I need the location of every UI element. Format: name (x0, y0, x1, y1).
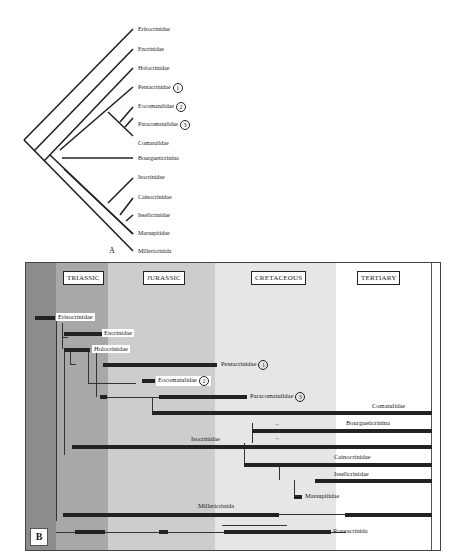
connector-line (279, 514, 345, 515)
range-bar-roveacrinida-1 (75, 530, 105, 534)
connector-line (62, 323, 63, 349)
connector-line (222, 525, 287, 526)
lineage-label-marsupitidae: Marsupitidae (303, 492, 341, 500)
lineage-label-cainocrinidae: Cainocrinidae (332, 453, 372, 461)
taxon-name: Paracomatulidae (138, 121, 178, 127)
taxon-label-isselicrinidae: Isselicrinidae (138, 211, 170, 219)
taxon-label-isocrinidae: Isocrinidae (138, 173, 165, 181)
lineage-label-pentacrinidae: Pentacrinidae1 (219, 360, 270, 370)
arrow-icon: → (274, 421, 280, 427)
connector-line (279, 465, 280, 480)
marker-1-icon: 1 (258, 360, 268, 370)
connector-line (64, 349, 65, 455)
range-bar-eocomatulidae (142, 379, 155, 383)
lineage-name: Eocomatulidae (158, 376, 197, 383)
lineage-label-holocrinidae: Holocrinidae (92, 345, 130, 353)
lineage-label-paracomatulidae: Paracomatulidae3 (248, 392, 307, 402)
range-bar-isocrinidae (72, 445, 432, 449)
connector-line (252, 423, 253, 443)
lineage-label-erisocrinidae: Erisocrinidae (56, 313, 95, 321)
present-day-line (431, 263, 432, 550)
lineage-name: Paracomatulidae (250, 392, 293, 399)
marker-3-icon: 3 (180, 120, 190, 130)
period-label-tertiary: TERTIARY (357, 271, 400, 285)
lineage-label-isocrinidae: Isocrinidae (189, 435, 222, 443)
lineage-label-roveacrinida: Roveacrinida (331, 527, 370, 535)
marker-2-icon: 2 (176, 102, 186, 112)
taxon-label-encrinidae: Encrinidae (138, 45, 164, 53)
connector-line (70, 364, 76, 365)
lineage-label-bourgueticrinina: Bourgueticrinina (344, 419, 392, 427)
range-bar-millericrinida (63, 513, 279, 517)
cladogram-branches (0, 0, 449, 258)
panel-letter-a: A (109, 246, 115, 255)
lineage-label-encrinidae: Encrinidae (102, 329, 134, 337)
lineage-label-isselicrinidae: Isselicrinidae (332, 470, 371, 478)
range-bar-roveacrinida-3 (224, 530, 331, 534)
connector-line (62, 337, 68, 338)
taxon-label-millericrinida: Millericrinida (138, 247, 171, 255)
range-bar-isselicrinidae (315, 479, 432, 483)
taxon-label-pentacrinidae: Pentacrinidae1 (138, 83, 183, 93)
taxon-label-erisocrinidae: Erisocrinidae (138, 25, 170, 33)
lineage-label-comatulidae: Comatulidae (370, 402, 407, 410)
range-bar-paracomatulidae (159, 395, 247, 399)
connector-line (294, 480, 295, 496)
panel-letter-b: B (30, 528, 48, 546)
range-bar-roveacrinida-2 (159, 530, 168, 534)
range-bar-millericrinida-late (345, 513, 432, 517)
range-bar-erisocrinidae (35, 316, 55, 320)
range-bar-paracomatulidae-early (100, 395, 107, 399)
range-chart-panel-b: TRIASSIC JURASSIC CRETACEOUS TERTIARY Er… (25, 262, 441, 551)
range-bar-bourgueticrinina (252, 429, 432, 433)
marker-2-icon: 2 (199, 376, 209, 386)
period-label-jurassic: JURASSIC (143, 271, 185, 285)
cladogram-panel-a: Erisocrinidae Encrinidae Holocrinidae Pe… (0, 0, 449, 258)
taxon-label-marsupitidae: Marsupitidae (138, 229, 170, 237)
taxon-name: Pentacrinidae (138, 84, 171, 90)
taxon-label-cainocrinidae: Cainocrinidae (138, 193, 172, 201)
period-label-cretaceous: CRETACEOUS (251, 271, 306, 285)
range-bar-encrinidae (64, 332, 102, 336)
connector-line (88, 383, 136, 384)
connector-line (56, 319, 57, 521)
connector-line (96, 349, 97, 397)
taxon-label-eocomatulidae: Eocomatulidae2 (138, 102, 186, 112)
range-bar-holocrinidae (64, 348, 90, 352)
lineage-name: Pentacrinidae (221, 360, 256, 367)
lineage-label-eocomatulidae: Eocomatulidae2 (156, 376, 211, 386)
taxon-label-holocrinidae: Holocrinidae (138, 64, 169, 72)
range-bar-comatulidae (152, 411, 432, 415)
taxon-label-comatulidae: Comatulidae (138, 139, 169, 147)
marker-1-icon: 1 (173, 83, 183, 93)
marker-3-icon: 3 (295, 392, 305, 402)
taxon-label-paracomatulidae: Paracomatulidae3 (138, 120, 190, 130)
arrow-icon: → (274, 435, 280, 441)
taxon-name: Eocomatulidae (138, 103, 174, 109)
band-pre-triassic (26, 263, 56, 550)
range-bar-cainocrinidae (244, 463, 432, 467)
taxon-label-bourgueticrinina: Bourgueticrinina (138, 154, 179, 162)
arrow-icon: → (60, 529, 66, 535)
range-bar-marsupitidae (294, 495, 302, 499)
period-label-triassic: TRIASSIC (63, 271, 104, 285)
lineage-label-millericrinida: Millericrinida (196, 502, 236, 510)
range-bar-pentacrinidae (103, 363, 217, 367)
connector-line (88, 349, 89, 383)
